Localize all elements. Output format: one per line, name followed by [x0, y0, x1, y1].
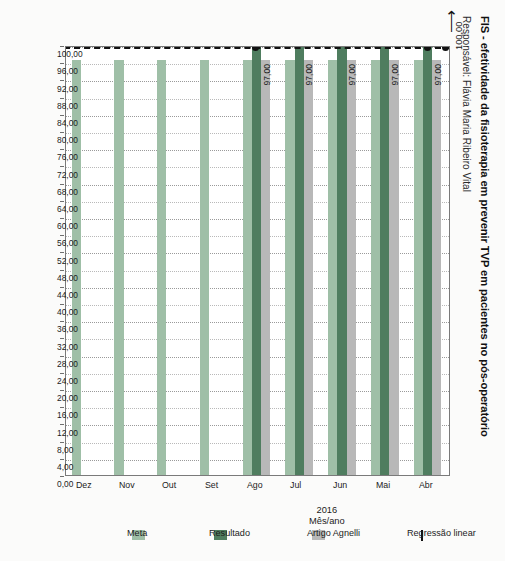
value-tick	[60, 252, 64, 253]
category-group: 97,00100,0097,00	[321, 47, 364, 475]
category-group: 97,00100,0097,00	[235, 47, 278, 475]
category-label-nov: Nov	[119, 480, 135, 490]
category-group: 97,00	[107, 47, 150, 475]
value-tick	[60, 459, 64, 460]
bar-value-label: 97,00	[433, 64, 443, 86]
bar-meta	[286, 60, 295, 475]
value-tick	[60, 304, 64, 305]
value-tick	[60, 356, 64, 357]
value-tick	[60, 201, 64, 202]
value-tick-label: 4,00	[57, 462, 73, 472]
bar-value-label: 97,00	[304, 64, 314, 86]
axis-title-year: 2016	[309, 505, 345, 516]
bar-meta	[243, 60, 252, 475]
value-axis: 100,0096,0092,0088,0084,0080,0076,0072,0…	[0, 46, 64, 476]
value-tick	[60, 80, 64, 81]
category-axis: AbrMaiJunJulAgoSetOutNovDez	[65, 478, 450, 508]
category-group: 97,00100,0097,00	[406, 47, 449, 475]
bar-resultado	[380, 47, 389, 475]
value-tick-label: 16,00	[57, 410, 78, 420]
value-tick-label: 72,00	[57, 170, 78, 180]
bar-meta	[371, 60, 380, 475]
plot-area: 97,00100,0097,0097,00100,0097,0097,00100…	[65, 46, 450, 476]
bar-meta	[114, 60, 123, 475]
bar-artigo-agnelli	[432, 60, 441, 475]
bar-resultado	[295, 47, 304, 475]
value-tick-label: 24,00	[57, 376, 78, 386]
chart-legend: MetaResultadoArtigo AgnelliRegressão lin…	[65, 527, 445, 549]
rotated-figure: FIS - efetividade da fisioterapia em pre…	[0, 0, 505, 561]
legend-label: Artigo Agnelli	[307, 528, 360, 538]
bar-value-label: 97,00	[347, 64, 357, 86]
bar-artigo-agnelli	[304, 60, 313, 475]
value-tick	[60, 132, 64, 133]
bar-artigo-agnelli	[389, 60, 398, 475]
value-tick	[60, 373, 64, 374]
value-tick	[60, 407, 64, 408]
category-group: 97,00	[150, 47, 193, 475]
bar-value-label: 97,00	[262, 64, 272, 86]
value-tick-label: 96,00	[57, 66, 78, 76]
category-group: 97,00100,0097,00	[278, 47, 321, 475]
value-tick-label: 80,00	[57, 135, 78, 145]
bar-meta	[328, 60, 337, 475]
bar-meta	[200, 60, 209, 475]
value-tick	[60, 476, 64, 477]
legend-label: Resultado	[209, 528, 250, 538]
value-tick-label: 36,00	[57, 324, 78, 334]
plot-inner: 97,00100,0097,0097,00100,0097,0097,00100…	[66, 47, 449, 475]
value-tick	[60, 390, 64, 391]
value-tick	[60, 115, 64, 116]
category-label-out: Out	[162, 480, 176, 490]
legend-label: Meta	[127, 528, 147, 538]
bar-artigo-agnelli	[347, 60, 356, 475]
value-tick-label: 92,00	[57, 84, 78, 94]
value-tick-label: 100,00	[57, 49, 83, 59]
category-label-jul: Jul	[290, 480, 301, 490]
value-tick-label: 32,00	[57, 342, 78, 352]
bar-resultado	[423, 47, 432, 475]
axis-title: 2016 Mês/ano	[309, 505, 345, 527]
category-label-ago: Ago	[248, 480, 264, 490]
bar-resultado	[337, 47, 346, 475]
value-tick	[60, 442, 64, 443]
value-tick	[60, 46, 64, 47]
value-tick	[60, 184, 64, 185]
value-tick	[60, 98, 64, 99]
bar-meta	[414, 60, 423, 475]
value-tick-label: 56,00	[57, 238, 78, 248]
value-tick	[60, 287, 64, 288]
bar-meta	[157, 60, 166, 475]
value-tick-label: 84,00	[57, 118, 78, 128]
value-tick	[60, 235, 64, 236]
axis-title-label: Mês/ano	[309, 516, 345, 527]
value-tick-label: 20,00	[57, 393, 78, 403]
chart-page: FIS - efetividade da fisioterapia em pre…	[0, 0, 505, 561]
value-tick-label: 40,00	[57, 307, 78, 317]
value-tick	[60, 218, 64, 219]
value-tick	[60, 166, 64, 167]
category-group: 97,00100,0097,00	[363, 47, 406, 475]
category-group: 97,00	[192, 47, 235, 475]
value-tick	[60, 424, 64, 425]
bar-resultado	[252, 47, 261, 475]
category-label-dez: Dez	[76, 480, 92, 490]
value-tick	[60, 63, 64, 64]
value-tick-label: 52,00	[57, 256, 78, 266]
bar-artigo-agnelli	[261, 60, 270, 475]
value-tick-label: 64,00	[57, 204, 78, 214]
value-tick-label: 68,00	[57, 187, 78, 197]
value-tick	[60, 338, 64, 339]
value-tick-label: 12,00	[57, 428, 78, 438]
value-tick-label: 48,00	[57, 273, 78, 283]
category-label-abr: Abr	[419, 480, 433, 490]
value-tick-label: 76,00	[57, 152, 78, 162]
value-tick-label: 44,00	[57, 290, 78, 300]
bar-value-label: 97,00	[390, 64, 400, 86]
category-label-jun: Jun	[333, 480, 347, 490]
category-label-mai: Mai	[376, 480, 390, 490]
value-tick-label: 88,00	[57, 101, 78, 111]
category-label-set: Set	[205, 480, 218, 490]
value-tick-label: 8,00	[57, 445, 73, 455]
legend-label: Regressão linear	[407, 528, 476, 538]
